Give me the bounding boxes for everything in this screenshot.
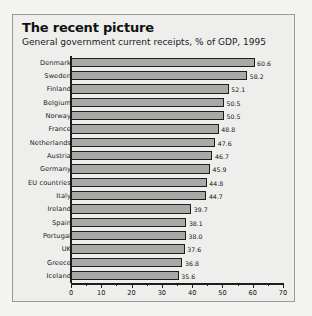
page-title: The recent picture bbox=[22, 20, 154, 35]
bar bbox=[71, 138, 215, 147]
category-label: Greece bbox=[47, 259, 71, 267]
bar-row: Finland52.1 bbox=[13, 83, 294, 96]
bar bbox=[71, 124, 219, 133]
bar bbox=[71, 244, 185, 253]
x-axis-tick-label: 0 bbox=[69, 289, 73, 297]
x-axis-tick-major bbox=[101, 283, 102, 288]
bar-row: Belgium50.5 bbox=[13, 96, 294, 109]
bar bbox=[71, 84, 229, 93]
bar bbox=[71, 164, 210, 173]
bar-value-label: 52.1 bbox=[231, 86, 245, 93]
bar-value-label: 36.8 bbox=[185, 259, 199, 266]
x-axis-tick-minor bbox=[207, 283, 208, 286]
category-label: Iceland bbox=[46, 272, 71, 280]
bar bbox=[71, 258, 182, 267]
category-label: Finland bbox=[47, 85, 71, 93]
bar-row: Iceland35.6 bbox=[13, 270, 294, 283]
x-axis-tick-minor bbox=[238, 283, 239, 286]
x-axis-tick-label: 20 bbox=[127, 289, 135, 297]
x-axis-tick-minor bbox=[116, 283, 117, 286]
category-label: Ireland bbox=[47, 205, 71, 213]
bar-value-label: 46.7 bbox=[215, 153, 229, 160]
bar-row: EU countries44.8 bbox=[13, 176, 294, 189]
x-axis-tick-label: 70 bbox=[279, 289, 287, 297]
bar-row: Austria46.7 bbox=[13, 149, 294, 162]
chart-panel-inner: The recent picture General government cu… bbox=[13, 15, 294, 301]
category-label: Italy bbox=[56, 192, 71, 200]
bar bbox=[71, 71, 247, 80]
bar-value-label: 35.6 bbox=[181, 273, 195, 280]
bar-row: Greece36.8 bbox=[13, 256, 294, 269]
bar-value-label: 60.6 bbox=[257, 59, 271, 66]
x-axis-tick-label: 50 bbox=[218, 289, 226, 297]
bar-value-label: 50.5 bbox=[226, 113, 240, 120]
bar-row: Germany45.9 bbox=[13, 163, 294, 176]
category-label: Spain bbox=[52, 219, 71, 227]
category-label: Belgium bbox=[43, 99, 71, 107]
category-label: Sweden bbox=[44, 72, 71, 80]
bar-value-label: 38.0 bbox=[189, 233, 203, 240]
bar-row: Ireland39.7 bbox=[13, 203, 294, 216]
category-label: Netherlands bbox=[30, 139, 71, 147]
x-axis-tick-minor bbox=[147, 283, 148, 286]
x-axis-tick-label: 10 bbox=[97, 289, 105, 297]
x-axis-tick-minor bbox=[86, 283, 87, 286]
bar-row: Netherlands47.6 bbox=[13, 136, 294, 149]
x-axis-tick-label: 60 bbox=[249, 289, 257, 297]
bar-value-label: 44.7 bbox=[209, 193, 223, 200]
x-axis-tick-major bbox=[132, 283, 133, 288]
bar-value-label: 39.7 bbox=[194, 206, 208, 213]
x-axis-tick-minor bbox=[268, 283, 269, 286]
bar bbox=[71, 204, 191, 213]
bar-row: Norway50.5 bbox=[13, 109, 294, 122]
bar bbox=[71, 218, 186, 227]
category-label: Norway bbox=[45, 112, 71, 120]
bar bbox=[71, 151, 212, 160]
bar-value-label: 37.6 bbox=[187, 246, 201, 253]
category-label: UK bbox=[62, 245, 71, 253]
bar-value-label: 50.5 bbox=[226, 99, 240, 106]
bar-value-label: 58.2 bbox=[250, 73, 264, 80]
bar bbox=[71, 98, 224, 107]
bar bbox=[71, 271, 179, 280]
bar-row: Italy44.7 bbox=[13, 189, 294, 202]
bar-rows: Denmark60.6Sweden58.2Finland52.1Belgium5… bbox=[13, 56, 294, 283]
bar-value-label: 47.6 bbox=[218, 139, 232, 146]
category-label: Denmark bbox=[40, 59, 71, 67]
category-label: Portugal bbox=[43, 232, 71, 240]
category-label: Germany bbox=[40, 165, 71, 173]
x-axis-tick-minor bbox=[177, 283, 178, 286]
bar-row: UK37.6 bbox=[13, 243, 294, 256]
bar-row: France48.8 bbox=[13, 123, 294, 136]
bar-row: Denmark60.6 bbox=[13, 56, 294, 69]
x-axis-tick-major bbox=[253, 283, 254, 288]
bar-value-label: 45.9 bbox=[213, 166, 227, 173]
bar bbox=[71, 111, 224, 120]
bar-row: Portugal38.0 bbox=[13, 229, 294, 242]
x-axis-tick-major bbox=[222, 283, 223, 288]
bar bbox=[71, 58, 255, 67]
bar-value-label: 38.1 bbox=[189, 219, 203, 226]
x-axis-tick-label: 40 bbox=[188, 289, 196, 297]
bar-row: Spain38.1 bbox=[13, 216, 294, 229]
category-label: France bbox=[48, 125, 71, 133]
plot-area: Denmark60.6Sweden58.2Finland52.1Belgium5… bbox=[13, 56, 294, 301]
category-label: Austria bbox=[47, 152, 71, 160]
bar-value-label: 44.8 bbox=[209, 179, 223, 186]
screenshot-root: The recent picture General government cu… bbox=[0, 0, 312, 316]
chart-panel: The recent picture General government cu… bbox=[12, 14, 295, 302]
x-axis-tick-major bbox=[283, 283, 284, 288]
chart-subtitle: General government current receipts, % o… bbox=[22, 37, 266, 47]
x-axis-tick-major bbox=[192, 283, 193, 288]
x-axis-tick-label: 30 bbox=[158, 289, 166, 297]
bar bbox=[71, 178, 207, 187]
category-label: EU countries bbox=[28, 179, 71, 187]
bar-row: Sweden58.2 bbox=[13, 69, 294, 82]
bar-value-label: 48.8 bbox=[221, 126, 235, 133]
x-axis-tick-major bbox=[162, 283, 163, 288]
x-axis-tick-major bbox=[71, 283, 72, 288]
bar bbox=[71, 191, 206, 200]
bar bbox=[71, 231, 186, 240]
